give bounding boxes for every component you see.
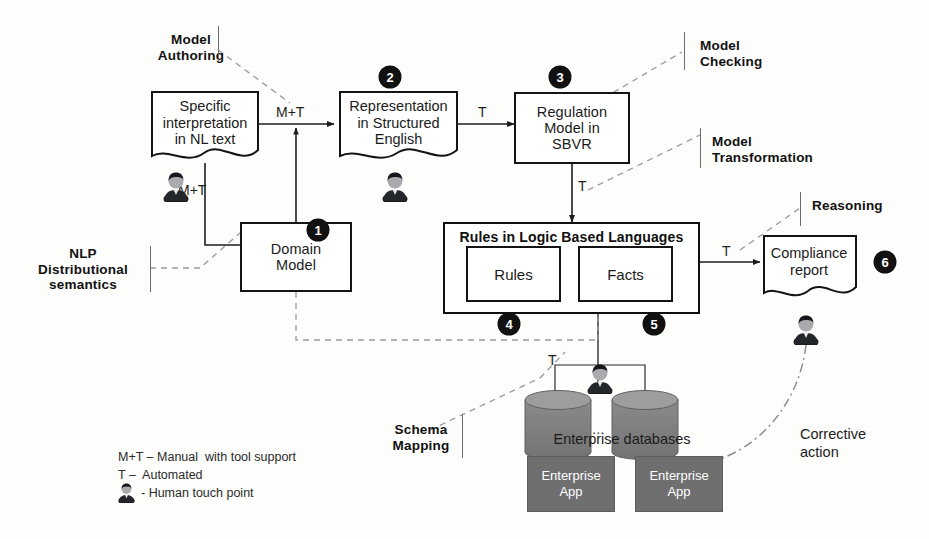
edge-label-nl-to-representation: M+T <box>276 104 304 120</box>
badge-3: 3 <box>549 66 571 88</box>
person-icon-nl-text <box>163 172 189 202</box>
badge-2: 2 <box>379 66 401 88</box>
legend-row-manual: M+T – Manual with tool support <box>118 448 296 466</box>
enterprise-databases-caption: Enterprise databases <box>527 430 717 448</box>
phase-model-authoring: Model Authoring <box>148 32 234 63</box>
phase-model-checking: Model Checking <box>700 38 810 69</box>
edge-label-sbvr-to-rules: T <box>578 178 587 194</box>
legend-row-automated: T – Automated <box>118 466 296 484</box>
representation-shape <box>340 92 457 158</box>
compliance-report-shape <box>764 236 856 295</box>
badge-5: 5 <box>643 313 665 335</box>
badge-4: 4 <box>498 313 520 335</box>
person-icon-representation <box>382 172 408 202</box>
phase-schema-mapping: Schema Mapping <box>384 422 458 453</box>
person-icon-compliance-report <box>793 315 819 345</box>
tick-schema-mapping <box>462 414 463 458</box>
databases-ellipsis: ... <box>592 420 605 439</box>
rules-box: Rules <box>466 246 561 302</box>
database-cylinder-2 <box>612 391 678 460</box>
leader-nlp-distributional <box>150 226 248 268</box>
legend-human-touch-point-text: - Human touch point <box>141 484 254 502</box>
rules-container-title: Rules in Logic Based Languages <box>445 229 698 245</box>
edge-label-rules-to-report: T <box>722 243 731 259</box>
regulation-model-sbvr-box: Regulation Model in SBVR <box>514 92 630 164</box>
enterprise-app-box-2: Enterprise App <box>635 456 723 512</box>
diagram-canvas: Specific interpretation in NL text Repre… <box>0 0 929 539</box>
tick-model-authoring <box>218 26 219 62</box>
edge-label-representation-to-sbvr: T <box>478 104 487 120</box>
tick-reasoning <box>800 192 801 226</box>
badge-6: 6 <box>874 251 896 273</box>
legend-row-human-touch-point: - Human touch point <box>118 484 296 502</box>
tick-nlp-distributional <box>150 246 151 292</box>
edge-label-databases-to-facts: T <box>548 352 557 368</box>
enterprise-app-box-1: Enterprise App <box>527 456 615 512</box>
badge-1: 1 <box>307 219 329 241</box>
phase-reasoning: Reasoning <box>812 198 904 214</box>
legend: M+T – Manual with tool support T – Autom… <box>118 448 296 502</box>
corrective-action-label: Corrective action <box>800 425 890 461</box>
person-icon-legend <box>118 483 135 503</box>
specific-interpretation-shape <box>152 92 258 158</box>
facts-box: Facts <box>578 246 673 302</box>
phase-nlp-distributional-semantics: NLP Distributional semantics <box>24 246 142 293</box>
phase-model-transformation: Model Transformation <box>712 134 852 165</box>
domain-model-box: Domain Model <box>240 222 352 292</box>
database-cylinder-1 <box>525 391 591 460</box>
person-icon-databases <box>587 364 613 394</box>
tick-model-transformation <box>700 128 701 168</box>
tick-model-checking <box>684 32 685 70</box>
